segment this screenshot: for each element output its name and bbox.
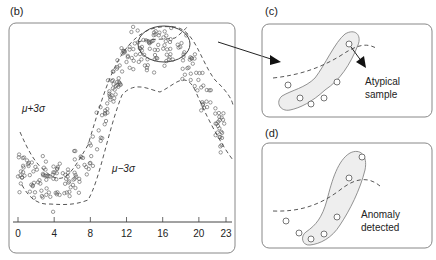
scatter-point (104, 119, 107, 122)
connector-arrowhead (270, 55, 281, 65)
scatter-point (187, 66, 190, 69)
scatter-point (134, 53, 137, 56)
scatter-point (152, 71, 155, 74)
scatter-point (120, 70, 123, 73)
scatter-point (44, 160, 47, 163)
panel-d-label: (d) (265, 127, 278, 139)
scatter-point (219, 151, 222, 154)
scatter-point (32, 170, 35, 173)
scatter-point (193, 53, 196, 56)
panel-c-annotation-line1: Atypical (365, 76, 400, 87)
x-tick-label: 23 (220, 228, 232, 239)
scatter-point (169, 53, 172, 56)
scatter-point (112, 83, 115, 86)
scatter-point (28, 190, 31, 193)
scatter-point (47, 191, 50, 194)
panel-d-annotation-line1: Anomaly (361, 209, 400, 220)
sample-point (283, 218, 289, 224)
scatter-point (183, 73, 186, 76)
scatter-point (163, 64, 166, 67)
highlight-ellipse (138, 26, 190, 62)
scatter-point (90, 154, 93, 157)
scatter-point (131, 25, 134, 28)
atypical-point (346, 41, 352, 47)
upper-bound-label: μ+3σ (21, 103, 46, 114)
scatter-point (189, 72, 192, 75)
scatter-point (49, 195, 52, 198)
scatter-point (33, 191, 36, 194)
sample-point (334, 214, 340, 220)
scatter-point (209, 101, 212, 104)
scatter-points (16, 25, 226, 213)
scatter-point (163, 30, 166, 33)
scatter-point (51, 210, 54, 213)
scatter-point (197, 78, 200, 81)
x-tick-label: 4 (51, 228, 57, 239)
lower-bound-curve (22, 80, 233, 205)
scatter-point (148, 47, 151, 50)
scatter-point (164, 40, 167, 43)
scatter-point (63, 182, 66, 185)
scatter-point (28, 173, 31, 176)
scatter-point (162, 36, 165, 39)
scatter-point (114, 93, 117, 96)
x-tick-label: 12 (121, 228, 133, 239)
scatter-point (202, 84, 205, 87)
scatter-point (41, 154, 44, 157)
scatter-point (73, 158, 76, 161)
sample-point (359, 154, 365, 160)
sample-point (296, 230, 302, 236)
scatter-point (195, 71, 198, 74)
scatter-point (169, 47, 172, 50)
connector-arrow-line (218, 42, 274, 60)
atypical-arrowhead (356, 56, 366, 68)
x-tick-label: 20 (193, 228, 205, 239)
scatter-point (91, 164, 94, 167)
scatter-point (133, 42, 136, 45)
x-axis-ticks: 04812162023 (15, 217, 232, 239)
scatter-point (77, 165, 80, 168)
scatter-point (19, 182, 22, 185)
scatter-point (181, 59, 184, 62)
scatter-point (189, 78, 192, 81)
scatter-point (117, 77, 120, 80)
scatter-point (23, 174, 26, 177)
scatter-point (58, 162, 61, 165)
scatter-point (88, 142, 91, 145)
scatter-point (45, 187, 48, 190)
scatter-point (68, 180, 71, 183)
scatter-point (63, 192, 66, 195)
scatter-point (196, 89, 199, 92)
panel-d-cluster-region (303, 151, 366, 245)
scatter-point (136, 29, 139, 32)
scatter-point (100, 114, 103, 117)
scatter-point (217, 111, 220, 114)
scatter-point (95, 148, 98, 151)
scatter-point (66, 168, 69, 171)
scatter-point (205, 100, 208, 103)
scatter-point (120, 47, 123, 50)
scatter-point (200, 109, 203, 112)
scatter-point (77, 191, 80, 194)
scatter-point (109, 98, 112, 101)
scatter-point (55, 172, 58, 175)
scatter-point (106, 102, 109, 105)
scatter-point (214, 107, 217, 110)
scatter-point (214, 112, 217, 115)
scatter-point (25, 159, 28, 162)
panel-c-annotation-line2: sample (365, 89, 398, 100)
scatter-point (110, 79, 113, 82)
scatter-point (19, 170, 22, 173)
scatter-point (162, 47, 165, 50)
scatter-point (89, 144, 92, 147)
sample-point (321, 231, 327, 237)
sample-point (308, 236, 314, 242)
scatter-point (74, 186, 77, 189)
scatter-point (40, 189, 43, 192)
panel-b-frame (9, 23, 235, 253)
scatter-point (181, 67, 184, 70)
panel-b-label: (b) (10, 5, 23, 17)
scatter-point (132, 68, 135, 71)
sample-point (346, 175, 352, 181)
scatter-point (108, 90, 111, 93)
